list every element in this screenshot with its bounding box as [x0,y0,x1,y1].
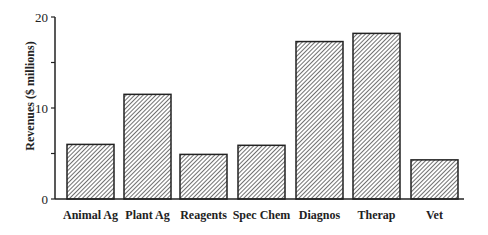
y-tick-label: 0 [42,192,49,207]
bar-diagnos [296,42,343,199]
category-label: Animal Ag [63,208,118,222]
y-axis-title: Revenues ($ millions) [23,41,37,150]
bar-vet [411,160,458,199]
bar-plant-ag [124,94,171,199]
bar-reagents [180,154,227,199]
bar-chart: Revenues ($ millions) 01020 Animal AgPla… [0,0,488,235]
category-label: Reagents [180,208,227,222]
y-tick-label: 10 [35,101,48,116]
category-label: Diagnos [299,208,341,222]
category-label: Plant Ag [125,208,169,222]
bars [67,33,458,199]
bar-animal-ag [67,144,114,199]
category-label: Spec Chem [233,208,291,222]
y-tick-label: 20 [35,10,48,25]
bar-therap [353,33,400,199]
x-axis: Animal AgPlant AgReagentsSpec ChemDiagno… [55,199,464,222]
category-label: Vet [426,208,443,222]
category-label: Therap [357,208,395,222]
bar-spec-chem [238,145,285,199]
y-axis-title-group: Revenues ($ millions) [23,41,37,150]
y-axis: 01020 [35,10,55,207]
